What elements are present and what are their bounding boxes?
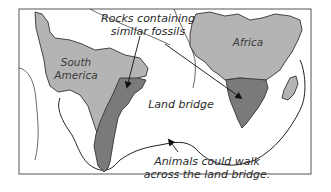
south-america-label-line2: America xyxy=(51,69,101,82)
animals-callout-line2: across the land bridge. xyxy=(142,168,272,181)
rocks-callout-label: Rocks containing similar fossils xyxy=(98,12,198,38)
south-america-label: South America xyxy=(51,56,101,82)
animals-callout-label: Animals could walk across the land bridg… xyxy=(142,155,272,181)
south-america-label-line1: South xyxy=(51,56,101,69)
land-bridge-label: Land bridge xyxy=(148,98,214,111)
rocks-callout-line1: Rocks containing xyxy=(98,12,198,25)
land-bridge-diagram: Rocks containing similar fossils South A… xyxy=(0,0,331,192)
animals-callout-line1: Animals could walk xyxy=(142,155,272,168)
africa-label: Africa xyxy=(228,36,268,49)
rocks-callout-line2: similar fossils xyxy=(98,25,198,38)
